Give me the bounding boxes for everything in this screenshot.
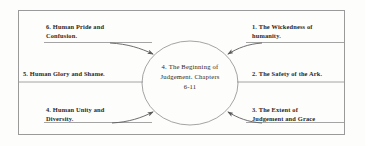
center-circle-label: 4. The Beginning of Judgement. Chapters … [144, 62, 236, 92]
connector-arrow-1 [228, 43, 262, 54]
branch-label-1: 1. The Wickedness of humanity. [252, 22, 352, 40]
branch-label-4: 4. Human Unity and Diversity. [46, 105, 146, 123]
branch-label-3: 3. The Extent of Judgement and Grace [252, 105, 352, 123]
branch-label-2: 2. The Safety of the Ark. [252, 69, 352, 78]
branch-label-6: 6. Human Pride and Confusion. [46, 22, 146, 40]
diagram-page: 6. Human Pride and Confusion. 5. Human G… [0, 0, 365, 146]
connector-arrow-6 [110, 43, 153, 54]
branch-label-5: 5. Human Glory and Shame. [23, 69, 141, 78]
